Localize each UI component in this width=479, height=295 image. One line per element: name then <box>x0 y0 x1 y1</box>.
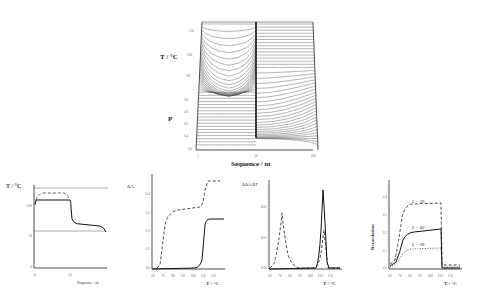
svg-text:0.02: 0.02 <box>261 205 267 209</box>
svg-text:80: 80 <box>288 274 292 278</box>
t-tick-100: 100 <box>187 53 193 57</box>
svg-text:90: 90 <box>418 274 422 278</box>
svg-text:0.01: 0.01 <box>261 236 267 240</box>
x-tick-1: 1 <box>197 154 199 158</box>
svg-text:0: 0 <box>30 265 32 269</box>
svg-text:0.4: 0.4 <box>146 192 151 196</box>
svg-text:80: 80 <box>408 274 412 278</box>
right-curves <box>256 24 318 145</box>
svg-text:0.0: 0.0 <box>146 266 151 270</box>
p-tick-06: 0.6 <box>184 122 189 126</box>
svg-text:0.0: 0.0 <box>383 266 388 270</box>
svg-text:110: 110 <box>200 274 205 278</box>
svg-text:0.4: 0.4 <box>383 195 388 199</box>
svg-text:110: 110 <box>317 274 322 278</box>
panel-derivative: 0.000.010.02 60708090100110120 ΔΔA/ΔT T … <box>242 180 342 286</box>
top-t-label: T / °C <box>160 53 178 61</box>
svg-text:120: 120 <box>327 274 333 278</box>
p4-x-label: T / °C <box>444 281 457 286</box>
left-curves <box>196 24 256 145</box>
svg-text:100: 100 <box>190 274 196 278</box>
p3-y-label: ΔΔA/ΔT <box>242 182 258 187</box>
legend-L60: L = 60 <box>411 225 425 230</box>
p2-y-label: ΔA <box>127 184 134 189</box>
p-tick-08: 0.8 <box>184 110 189 114</box>
svg-text:0.3: 0.3 <box>383 213 388 217</box>
p2-x-label: T / °C <box>206 281 219 286</box>
p1-y-label: T / °C <box>6 183 21 189</box>
t-tick-80: 80 <box>187 74 191 78</box>
svg-text:90: 90 <box>298 274 302 278</box>
svg-text:60: 60 <box>268 274 272 278</box>
top-surface-plot: 120 100 80 60 0.8 0.6 0.4 0.0 1 50 100 T… <box>160 22 318 168</box>
svg-text:100: 100 <box>307 274 313 278</box>
svg-text:50: 50 <box>68 273 72 277</box>
legend-L90: L = 90 <box>411 242 425 247</box>
top-x-label: Sequence / nt <box>231 160 271 168</box>
svg-text:120: 120 <box>447 274 453 278</box>
svg-text:50: 50 <box>29 234 33 238</box>
svg-text:0.2: 0.2 <box>383 231 388 235</box>
panel-sequence-temperature: 100500 050 T / °C Sequence / nt <box>6 183 108 285</box>
svg-text:120: 120 <box>210 274 216 278</box>
svg-text:100: 100 <box>427 274 433 278</box>
svg-text:110: 110 <box>437 274 442 278</box>
legend-L20: L = 20 <box>411 199 425 204</box>
p3-x-label: T / °C <box>323 281 336 286</box>
svg-text:80: 80 <box>171 274 175 278</box>
p4-y-label: Retardation <box>370 224 375 250</box>
p-tick-04: 0.4 <box>184 134 189 138</box>
p1-x-label: Sequence / nt <box>77 280 99 285</box>
svg-text:0.3: 0.3 <box>146 211 151 215</box>
svg-text:0.2: 0.2 <box>146 229 151 233</box>
svg-text:70: 70 <box>398 274 402 278</box>
svg-text:60: 60 <box>151 274 155 278</box>
panel-retardation: 0.00.10.20.30.4 60708090100110120 L = 20… <box>370 180 462 286</box>
x-tick-50: 50 <box>254 154 258 158</box>
svg-text:70: 70 <box>161 274 165 278</box>
panel-delta-a: 0.00.10.20.30.4 60708090100110120 ΔA T /… <box>127 174 225 286</box>
svg-text:70: 70 <box>278 274 282 278</box>
svg-text:0.1: 0.1 <box>383 249 388 253</box>
svg-text:0.1: 0.1 <box>146 247 151 251</box>
t-tick-60: 60 <box>185 98 189 102</box>
p-tick-00: 0.0 <box>188 147 193 151</box>
svg-text:0.00: 0.00 <box>261 266 267 270</box>
svg-text:90: 90 <box>181 274 185 278</box>
svg-text:0: 0 <box>34 273 36 277</box>
figure: 120 100 80 60 0.8 0.6 0.4 0.0 1 50 100 T… <box>0 0 479 295</box>
svg-text:100: 100 <box>27 204 33 208</box>
top-p-label: P <box>168 115 173 123</box>
svg-text:60: 60 <box>388 274 392 278</box>
x-tick-100: 100 <box>310 154 316 158</box>
t-tick-120: 120 <box>189 29 195 33</box>
